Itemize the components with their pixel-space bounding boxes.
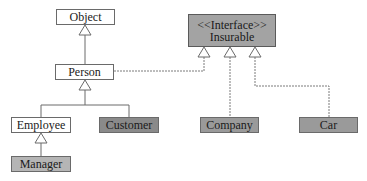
class-object-label: Object bbox=[70, 11, 102, 23]
inheritance-subclasses-person bbox=[41, 80, 129, 117]
uml-diagram: Object Person Employee Customer Manager … bbox=[0, 0, 367, 181]
class-customer: Customer bbox=[99, 117, 159, 133]
class-manager-label: Manager bbox=[20, 158, 63, 170]
class-employee-label: Employee bbox=[17, 119, 66, 131]
class-person: Person bbox=[55, 64, 114, 80]
inheritance-manager-employee bbox=[35, 133, 47, 156]
interface-insurable: <<Interface>> Insurable bbox=[188, 14, 276, 47]
class-customer-label: Customer bbox=[106, 119, 153, 131]
realization-arrowheads bbox=[198, 47, 261, 57]
class-manager: Manager bbox=[11, 156, 71, 172]
class-object: Object bbox=[56, 9, 115, 25]
class-car-label: Car bbox=[320, 119, 337, 131]
class-person-label: Person bbox=[68, 66, 101, 78]
realization-lines bbox=[114, 57, 329, 117]
class-company: Company bbox=[200, 117, 259, 133]
class-car: Car bbox=[299, 117, 358, 133]
interface-insurable-label: Insurable bbox=[210, 31, 255, 43]
inheritance-person-object bbox=[79, 25, 91, 64]
connectors bbox=[0, 0, 367, 181]
class-company-label: Company bbox=[206, 119, 253, 131]
class-employee: Employee bbox=[11, 117, 71, 133]
interface-stereotype: <<Interface>> bbox=[197, 19, 267, 31]
